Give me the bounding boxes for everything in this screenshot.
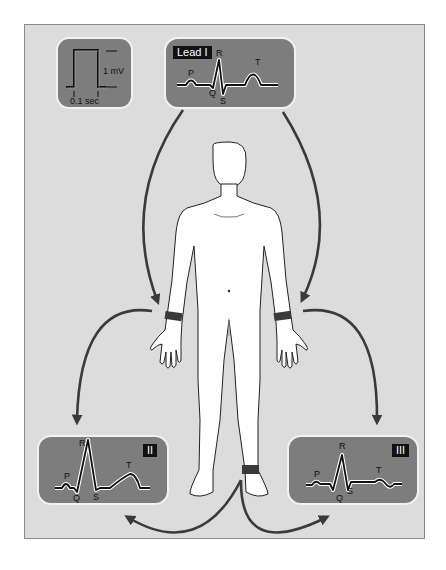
lead-3-t-wave: T: [376, 465, 382, 475]
calibration-time-label: 0.1 sec: [70, 96, 99, 106]
arrow-right-wrist-to-lead2: [77, 310, 152, 420]
ecg-diagram: [0, 0, 446, 570]
lead-1-q-wave: Q: [209, 88, 216, 98]
lead-1-s-wave: S: [220, 96, 226, 106]
arrow-lead1-to-left-wrist: [283, 112, 320, 298]
lead-2-s-wave: S: [93, 492, 99, 502]
lead-3-r-wave: R: [339, 441, 346, 451]
left-ankle-electrode: [242, 465, 259, 474]
lead-3-p-wave: P: [314, 469, 320, 479]
lead-1-t-wave: T: [255, 57, 261, 67]
lead-3-label: III: [392, 444, 409, 457]
lead-2-r-wave: R: [79, 438, 86, 448]
lead-2-t-wave: T: [126, 460, 132, 470]
lead-1-label: Lead I: [173, 46, 212, 59]
arrow-left-wrist-to-lead3: [303, 310, 377, 420]
lead-3-s-wave: S: [347, 486, 353, 496]
calibration-amplitude-label: 1 mV: [103, 66, 124, 76]
lead-3-q-wave: Q: [336, 493, 343, 503]
lead-2-p-wave: P: [64, 471, 70, 481]
lead-1-p-wave: P: [188, 68, 194, 78]
lead-2-q-wave: Q: [73, 493, 80, 503]
lead-2-label: II: [143, 444, 157, 457]
lead-1-r-wave: R: [216, 48, 223, 58]
